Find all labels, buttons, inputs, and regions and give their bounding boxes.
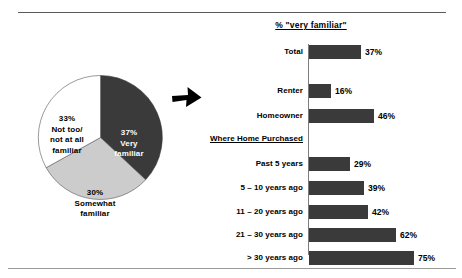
- pie-label-very-familiar-line2: familiar: [114, 149, 143, 158]
- bar-category-label: 5 – 10 years ago: [205, 182, 303, 194]
- pie-label-not-familiar-line1: Not too/: [51, 125, 82, 134]
- bar-chart-panel: % "very familiar" Where Home Purchased T…: [205, 14, 462, 266]
- bar-value-label: 29%: [354, 158, 371, 170]
- pie-label-somewhat-familiar-pct: 30%: [87, 188, 103, 197]
- bar-category-label: > 30 years ago: [205, 252, 303, 264]
- bar-category-label: Homeowner: [205, 110, 303, 122]
- bar-value-label: 42%: [372, 206, 389, 218]
- top-divider-rule: [18, 12, 446, 13]
- bar-value-label: 75%: [418, 252, 435, 264]
- bar-fill: [309, 157, 350, 171]
- pie-label-not-familiar: 33% Not too/ not at all familiar: [36, 114, 98, 156]
- pie-label-very-familiar: 37% Very familiar: [100, 128, 158, 160]
- bar-category-label: Total: [205, 46, 303, 58]
- bar-category-label: 11 – 20 years ago: [205, 206, 303, 218]
- bar-chart-axis-line: [308, 44, 309, 255]
- bar-group-header-where-home-purchased: Where Home Purchased: [205, 134, 303, 143]
- pie-label-very-familiar-pct: 37%: [121, 128, 137, 137]
- bar-fill: [309, 84, 331, 98]
- pie-label-not-familiar-pct: 33%: [59, 114, 75, 123]
- bar-chart-title: % "very familiar": [205, 20, 417, 30]
- bar-value-label: 46%: [378, 110, 395, 122]
- bar-fill: [309, 251, 414, 265]
- bar-category-label: Past 5 years: [205, 158, 303, 170]
- pie-label-not-familiar-line2: not at all: [50, 135, 84, 144]
- pie-label-not-familiar-line3: familiar: [52, 146, 81, 155]
- bar-fill: [309, 205, 368, 219]
- bar-value-label: 16%: [335, 85, 352, 97]
- bottom-divider-rule: [8, 268, 456, 269]
- bar-fill: [309, 181, 364, 195]
- pie-label-somewhat-familiar-line2: familiar: [80, 209, 109, 218]
- bar-fill: [309, 45, 361, 59]
- pie-label-somewhat-familiar: 30% Somewhat familiar: [62, 188, 128, 220]
- bar-category-label: Renter: [205, 85, 303, 97]
- pie-chart-panel: 37% Very familiar 30% Somewhat familiar …: [0, 20, 205, 260]
- pie-label-very-familiar-line1: Very: [120, 139, 137, 148]
- right-arrow-icon-svg: [171, 84, 203, 110]
- bar-fill: [309, 109, 374, 123]
- right-arrow-shape: [172, 87, 202, 107]
- bar-value-label: 62%: [400, 229, 417, 241]
- bar-fill: [309, 228, 396, 242]
- bar-value-label: 37%: [365, 46, 382, 58]
- bar-category-label: 21 – 30 years ago: [205, 229, 303, 241]
- pie-label-somewhat-familiar-line1: Somewhat: [75, 199, 116, 208]
- right-arrow-icon: [171, 84, 203, 110]
- bar-value-label: 39%: [368, 182, 385, 194]
